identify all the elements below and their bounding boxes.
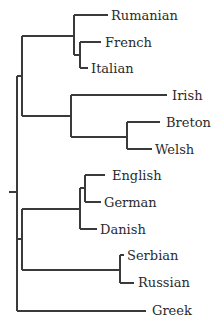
leaf-label-breton: Breton <box>166 115 212 130</box>
leaf-label-serbian: Serbian <box>127 248 179 263</box>
leaf-label-welsh: Welsh <box>155 142 195 157</box>
leaf-label-french: French <box>105 35 153 50</box>
leaf-label-german: German <box>104 195 157 210</box>
leaf-label-rumanian: Rumanian <box>111 8 179 23</box>
leaf-label-russian: Russian <box>138 275 190 290</box>
leaf-label-irish: Irish <box>172 88 203 103</box>
leaf-label-danish: Danish <box>100 222 146 237</box>
leaf-label-english: English <box>112 168 162 183</box>
phylogenetic-tree: Rumanian French Italian Irish Breton Wel… <box>0 0 213 329</box>
leaf-label-italian: Italian <box>91 61 134 76</box>
leaf-label-greek: Greek <box>152 303 192 318</box>
